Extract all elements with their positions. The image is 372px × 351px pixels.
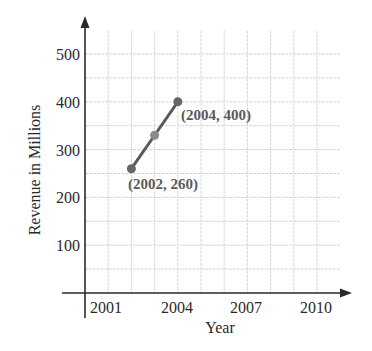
data-point-marker <box>173 97 182 106</box>
y-axis-arrow-icon <box>81 16 90 28</box>
x-tick-2001: 2001 <box>90 299 122 316</box>
annotation-2004-400: (2004, 400) <box>181 107 251 124</box>
annotation-2002-260: (2002, 260) <box>128 176 198 193</box>
y-tick-300: 300 <box>56 142 80 159</box>
y-tick-500: 500 <box>56 46 80 63</box>
x-tick-2010: 2010 <box>300 299 332 316</box>
x-tick-2007: 2007 <box>230 299 262 316</box>
x-axis-arrow-icon <box>340 289 352 298</box>
y-axis-title: Revenue in Millions <box>26 105 43 236</box>
y-tick-200: 200 <box>56 189 80 206</box>
data-point-marker <box>127 164 136 173</box>
x-tick-2004: 2004 <box>161 299 193 316</box>
data-point-marker <box>150 131 159 140</box>
line-chart: 500 400 300 200 100 2001 2004 2007 2010 … <box>0 0 372 351</box>
grid <box>85 31 340 293</box>
y-tick-100: 100 <box>56 237 80 254</box>
y-tick-400: 400 <box>56 94 80 111</box>
x-axis-title: Year <box>205 319 235 336</box>
